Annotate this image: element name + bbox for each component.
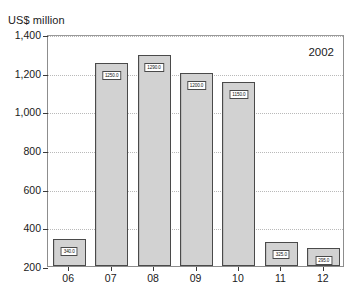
bar-value-label: 1250.0 bbox=[102, 71, 121, 80]
x-tick-label: 07 bbox=[105, 272, 117, 284]
y-tick-label: 400 bbox=[23, 222, 41, 234]
x-tick-label: 06 bbox=[62, 272, 74, 284]
bar bbox=[180, 73, 213, 266]
x-tick-mark bbox=[68, 267, 69, 271]
bar-value-label: 325.0 bbox=[273, 250, 290, 259]
bar-edge bbox=[54, 240, 55, 265]
y-tick-label: 1,400 bbox=[15, 29, 41, 41]
y-tick-label: 1,000 bbox=[15, 106, 41, 118]
x-tick-mark bbox=[238, 267, 239, 271]
x-tick-label: 12 bbox=[317, 272, 329, 284]
x-tick-mark bbox=[196, 267, 197, 271]
year-annotation: 2002 bbox=[308, 46, 334, 58]
x-tick-mark bbox=[323, 267, 324, 271]
bar bbox=[138, 55, 171, 266]
plot-area: 340.01250.01290.01200.01150.0325.0295.0 … bbox=[47, 35, 344, 267]
y-tick-label: 800 bbox=[23, 145, 41, 157]
bar-value-label: 1200.0 bbox=[187, 81, 206, 90]
chart-axis-title: US$ million bbox=[8, 14, 65, 26]
bar-edge bbox=[181, 74, 182, 265]
y-tick-label: 1,200 bbox=[15, 68, 41, 80]
bars bbox=[48, 36, 343, 266]
x-tick-label: 08 bbox=[147, 272, 159, 284]
bar-value-label: 1290.0 bbox=[144, 63, 163, 72]
bar-edge bbox=[96, 64, 97, 265]
x-tick-mark bbox=[111, 267, 112, 271]
bar-edge bbox=[223, 83, 224, 265]
x-tick-mark bbox=[280, 267, 281, 271]
x-tick-label: 09 bbox=[190, 272, 202, 284]
bar-chart: US$ million 2004006008001,0001,2001,400 … bbox=[0, 0, 355, 292]
x-axis: 06070809101112 bbox=[47, 267, 344, 292]
bar-edge bbox=[308, 249, 309, 265]
bar-edge bbox=[139, 56, 140, 265]
bar-value-label: 295.0 bbox=[315, 256, 332, 265]
bar bbox=[222, 82, 255, 266]
y-tick-label: 600 bbox=[23, 184, 41, 196]
x-tick-label: 10 bbox=[232, 272, 244, 284]
bar-value-label: 340.0 bbox=[61, 247, 78, 256]
bar-edge bbox=[266, 243, 267, 265]
y-tick-label: 200 bbox=[23, 261, 41, 273]
y-axis-labels: 2004006008001,0001,2001,400 bbox=[0, 35, 41, 267]
bar-value-label: 1150.0 bbox=[229, 90, 248, 99]
bar bbox=[95, 63, 128, 266]
x-tick-mark bbox=[153, 267, 154, 271]
x-tick-label: 11 bbox=[275, 272, 286, 284]
